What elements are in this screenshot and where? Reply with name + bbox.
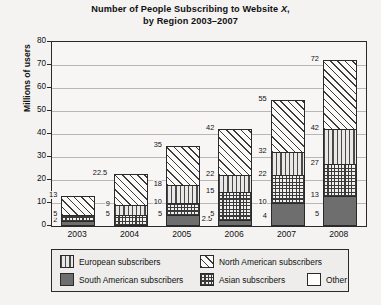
bar-2005 — [166, 146, 200, 227]
value-label-2006-15: 15 — [206, 187, 215, 195]
bar-segment-2008-1 — [324, 164, 356, 196]
y-tick-label-10: 10 — [22, 197, 46, 206]
solid-gray-swatch — [60, 273, 74, 286]
chart-title-line1-post: , — [287, 4, 290, 14]
bar-segment-2006-2 — [219, 175, 251, 191]
gridline-40 — [52, 134, 366, 135]
gridline-20 — [52, 180, 366, 181]
value-label-2007-4: 4 — [262, 212, 267, 220]
value-label-2004-5: 5 — [105, 210, 110, 218]
bar-2006 — [218, 129, 252, 226]
value-label-2007-10: 10 — [258, 198, 267, 206]
gridline-70 — [52, 65, 366, 66]
gridline-50 — [52, 111, 366, 112]
bar-segment-2008-3 — [324, 60, 356, 129]
legend-item-label: South American subscribers — [79, 275, 183, 285]
white-swatch — [307, 273, 321, 286]
y-tick-mark-60 — [47, 87, 51, 88]
bar-segment-2005-3 — [167, 146, 199, 185]
bar-segment-2005-1 — [167, 203, 199, 215]
value-label-2005-10: 10 — [153, 198, 162, 206]
legend-item-2: South American subscribers — [60, 273, 183, 286]
value-label-2003-5: 5 — [53, 210, 58, 218]
vertical-stripe-swatch — [60, 255, 74, 268]
x-tick-label-2005: 2005 — [159, 229, 205, 239]
y-tick-label-50: 50 — [22, 105, 46, 114]
legend-item-3: Asian subscribers — [200, 273, 285, 286]
x-tick-label-2008: 2008 — [316, 229, 362, 239]
x-tick-label-2007: 2007 — [264, 229, 310, 239]
value-label-2005-18: 18 — [153, 180, 162, 188]
y-tick-label-80: 80 — [22, 36, 46, 45]
bar-2007 — [271, 100, 305, 227]
y-tick-mark-30 — [47, 156, 51, 157]
legend-item-label: North American subscribers — [219, 257, 322, 267]
bar-segment-2003-2 — [62, 196, 94, 214]
y-tick-mark-50 — [47, 110, 51, 111]
y-tick-label-40: 40 — [22, 128, 46, 137]
value-label-2006-22: 22 — [206, 170, 215, 178]
bar-segment-2007-2 — [272, 152, 304, 175]
bar-segment-2004-1 — [115, 205, 147, 214]
y-tick-label-0: 0 — [22, 220, 46, 229]
y-tick-mark-0 — [47, 225, 51, 226]
value-label-2005-35: 35 — [153, 141, 162, 149]
chart-plot-area: Millions of users — [51, 41, 367, 227]
legend-item-label: Asian subscribers — [219, 275, 285, 285]
diagonal-hatch-swatch — [200, 255, 214, 268]
bar-segment-2005-2 — [167, 185, 199, 203]
bar-segment-2007-0 — [272, 203, 304, 226]
y-tick-mark-10 — [47, 202, 51, 203]
value-label-2007-22: 22 — [258, 170, 267, 178]
x-tick-label-2003: 2003 — [54, 229, 100, 239]
legend-item-label: European subscribers — [79, 257, 160, 267]
legend-item-0: European subscribers — [60, 255, 160, 268]
y-tick-label-70: 70 — [22, 59, 46, 68]
value-label-2004-9: 9 — [105, 200, 110, 208]
y-tick-mark-70 — [47, 64, 51, 65]
value-label-2008-5: 5 — [315, 210, 320, 218]
x-tick-label-2004: 2004 — [107, 229, 153, 239]
y-tick-mark-80 — [47, 41, 51, 42]
chart-title-line1-pre: Number of People Subscribing to Website — [91, 4, 281, 14]
y-tick-mark-40 — [47, 133, 51, 134]
bar-segment-2004-2 — [115, 174, 147, 205]
y-tick-label-20: 20 — [22, 174, 46, 183]
value-label-2008-13: 13 — [310, 191, 319, 199]
legend-item-1: North American subscribers — [200, 255, 322, 268]
value-label-2007-32: 32 — [258, 147, 267, 155]
bar-segment-2006-1 — [219, 192, 251, 221]
bar-segment-2007-3 — [272, 100, 304, 153]
value-label-2008-72: 72 — [310, 55, 319, 63]
value-label-2008-42: 42 — [310, 124, 319, 132]
bar-2008 — [323, 60, 357, 226]
gridline-10 — [52, 203, 366, 204]
legend-item-label: Other — [326, 275, 347, 285]
bar-segment-2006-3 — [219, 129, 251, 175]
gridline-60 — [52, 88, 366, 89]
chart-legend: European subscribersNorth American subsc… — [51, 249, 349, 292]
value-label-2003-13: 13 — [49, 191, 58, 199]
bar-2003 — [61, 196, 95, 226]
bar-segment-2008-0 — [324, 196, 356, 226]
value-label-2004-22.5: 22.5 — [92, 169, 107, 177]
bar-segment-2003-1 — [62, 215, 94, 222]
bar-segment-2008-2 — [324, 129, 356, 164]
bar-segment-2006-0 — [219, 220, 251, 226]
x-tick-label-2006: 2006 — [211, 229, 257, 239]
value-label-2007-55: 55 — [258, 95, 267, 103]
y-axis-title: Millions of users — [22, 44, 32, 112]
value-label-2006-42: 42 — [206, 124, 215, 132]
bar-2004 — [114, 174, 148, 226]
value-label-2005-5: 5 — [158, 210, 163, 218]
y-tick-mark-20 — [47, 179, 51, 180]
chart-title: Number of People Subscribing to Website … — [0, 4, 381, 27]
value-label-2008-27: 27 — [310, 159, 319, 167]
chart-title-line1: Number of People Subscribing to Website … — [91, 4, 290, 14]
y-tick-label-30: 30 — [22, 151, 46, 160]
chart-title-line2: by Region 2003–2007 — [143, 16, 238, 26]
bar-segment-2004-0 — [115, 215, 147, 227]
value-label-2003-2: 2 — [53, 216, 58, 224]
grid-hatch-swatch — [200, 273, 214, 286]
bar-segment-2007-1 — [272, 175, 304, 203]
